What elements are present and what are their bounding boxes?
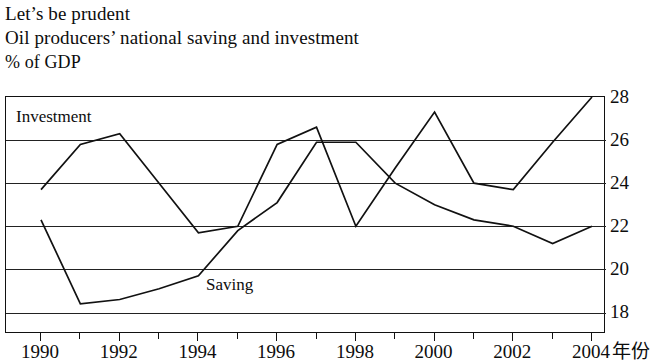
y-tick-26: 26 [610, 130, 652, 149]
x-tick-1995 [237, 333, 238, 339]
x-tick-1994 [197, 333, 198, 341]
chart-title: Oil producers’ national saving and inves… [5, 26, 505, 50]
line-investment [41, 97, 592, 233]
x-tick-1996 [276, 333, 277, 341]
x-tick-2002 [512, 333, 513, 341]
y-tick-22: 22 [610, 216, 652, 235]
series-lines [6, 97, 606, 334]
y-tick-28: 28 [610, 87, 652, 106]
x-tick-1993 [158, 333, 159, 339]
x-tick-2001 [473, 333, 474, 339]
x-label-2002: 2002 [493, 341, 531, 362]
x-tick-1991 [79, 333, 80, 339]
x-label-1996: 1996 [257, 341, 295, 362]
series-label-investment: Investment [16, 107, 92, 126]
y-axis-labels: 282624222018 [610, 96, 655, 333]
plot-frame: Investment Saving [5, 96, 605, 333]
chart-figure: Let’s be prudent Oil producers’ national… [0, 0, 657, 362]
x-label-1998: 1998 [336, 341, 374, 362]
y-tick-20: 20 [610, 259, 652, 278]
x-label-1990: 1990 [21, 341, 59, 362]
series-label-saving: Saving [206, 275, 253, 294]
line-saving [41, 142, 592, 304]
y-tick-18: 18 [610, 302, 652, 321]
title-block: Let’s be prudent Oil producers’ national… [5, 2, 505, 74]
x-tick-1999 [394, 333, 395, 339]
x-tick-1992 [119, 333, 120, 341]
chart-plot-area: Investment Saving [5, 96, 605, 333]
x-axis-title: 年份 [612, 341, 650, 362]
x-label-2004: 2004 [572, 341, 610, 362]
x-tick-1990 [40, 333, 41, 341]
x-label-1994: 1994 [178, 341, 216, 362]
x-tick-2003 [552, 333, 553, 339]
chart-subtitle-kicker: Let’s be prudent [5, 2, 505, 26]
chart-units-label: % of GDP [5, 50, 505, 74]
x-label-1992: 1992 [100, 341, 138, 362]
x-tick-1998 [355, 333, 356, 341]
y-tick-24: 24 [610, 173, 652, 192]
x-tick-1997 [316, 333, 317, 339]
x-tick-2000 [434, 333, 435, 341]
x-axis-labels: 19901992199419961998200020022004 [0, 341, 657, 362]
x-label-2000: 2000 [415, 341, 453, 362]
x-tick-2004 [591, 333, 592, 341]
